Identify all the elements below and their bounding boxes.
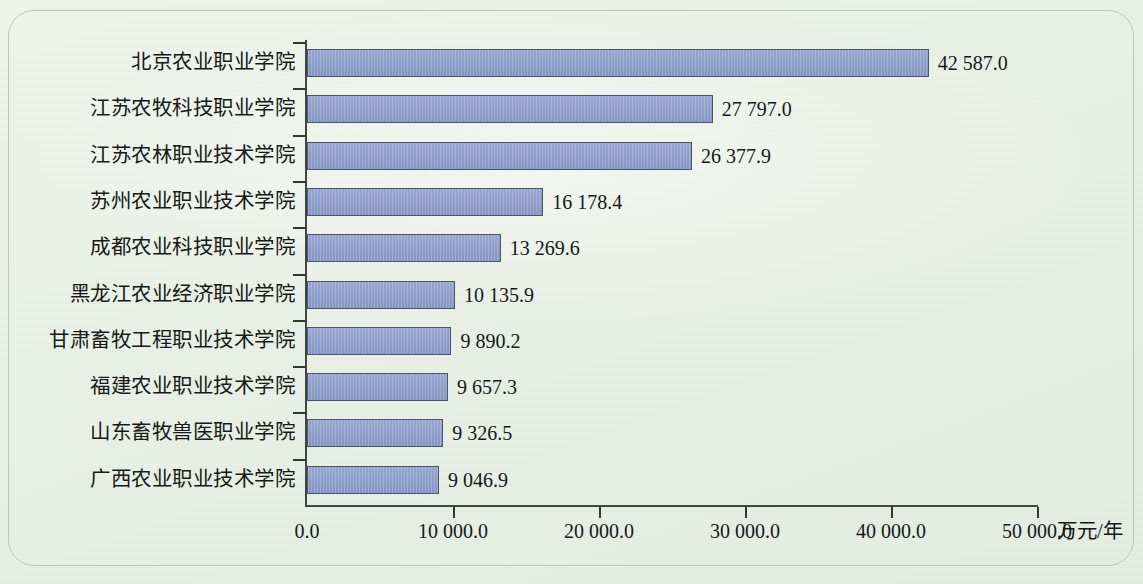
bar [307, 373, 448, 401]
y-axis-tick [293, 274, 306, 276]
bar [307, 234, 501, 262]
y-axis-tick [293, 227, 306, 229]
category-label: 甘肃畜牧工程职业技术学院 [0, 330, 295, 351]
y-axis-tick [293, 412, 306, 414]
bar [307, 419, 443, 447]
category-label: 福建农业职业技术学院 [0, 376, 295, 397]
y-axis-tick [293, 320, 306, 322]
y-axis-tick [293, 181, 306, 183]
bar [307, 281, 455, 309]
bar [307, 327, 451, 355]
y-axis-tick [293, 459, 306, 461]
x-axis-tick [453, 507, 455, 518]
y-axis-tick [293, 135, 306, 137]
y-axis-tick [293, 42, 306, 44]
x-axis-tick [599, 507, 601, 518]
x-axis-tick-label: 20 000.0 [564, 521, 634, 541]
bar-value-label: 42 587.0 [938, 53, 1008, 73]
category-label: 北京农业职业学院 [0, 52, 295, 73]
bar-value-label: 27 797.0 [722, 99, 792, 119]
x-axis-tick-label: 40 000.0 [856, 521, 926, 541]
category-label: 江苏农牧科技职业学院 [0, 98, 295, 119]
category-label: 广西农业职业技术学院 [0, 469, 295, 490]
bar-value-label: 9 046.9 [448, 470, 508, 490]
bar-value-label: 9 890.2 [460, 331, 520, 351]
bar-value-label: 9 326.5 [452, 423, 512, 443]
bar [307, 95, 713, 123]
x-axis-tick-label: 50 000.0 [1002, 521, 1072, 541]
x-axis-tick [745, 507, 747, 518]
bar [307, 142, 692, 170]
category-label: 成都农业科技职业学院 [0, 237, 295, 258]
bar [307, 466, 439, 494]
horizontal-bar-chart: 万元/年 北京农业职业学院42 587.0江苏农牧科技职业学院27 797.0江… [0, 0, 1143, 584]
x-axis-tick [891, 507, 893, 518]
bar [307, 188, 543, 216]
x-axis-tick-label: 10 000.0 [418, 521, 488, 541]
x-axis-tick-label: 0.0 [295, 521, 320, 541]
x-axis-line [305, 505, 1038, 507]
bar-value-label: 13 269.6 [510, 238, 580, 258]
bar-value-label: 16 178.4 [552, 192, 622, 212]
bar-value-label: 10 135.9 [464, 285, 534, 305]
bar-value-label: 26 377.9 [701, 146, 771, 166]
category-label: 江苏农林职业技术学院 [0, 145, 295, 166]
category-label: 山东畜牧兽医职业学院 [0, 422, 295, 443]
bar [307, 49, 929, 77]
x-axis-tick-label: 30 000.0 [710, 521, 780, 541]
y-axis-tick [293, 88, 306, 90]
bar-value-label: 9 657.3 [457, 377, 517, 397]
category-label: 苏州农业职业技术学院 [0, 191, 295, 212]
y-axis-tick [293, 366, 306, 368]
category-label: 黑龙江农业经济职业学院 [0, 284, 295, 305]
scanned-page: 万元/年 北京农业职业学院42 587.0江苏农牧科技职业学院27 797.0江… [0, 0, 1143, 584]
x-axis-tick [1037, 507, 1039, 518]
